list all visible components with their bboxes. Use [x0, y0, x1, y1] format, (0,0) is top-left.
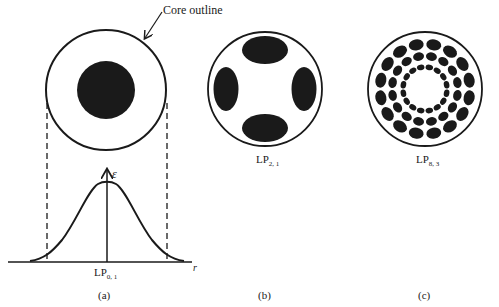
- lobe-ring-2: [452, 89, 462, 101]
- lobe-ring-2: [391, 64, 404, 78]
- fiber-mode-diagram: Core outline ε r LP0, 1 (a) LP2, 1 (b) L…: [0, 0, 499, 307]
- lobe-ring-2: [425, 51, 437, 61]
- core-outline-label: Core outline: [163, 3, 223, 17]
- lobe-ring-2: [452, 76, 462, 88]
- lobe-ring-3: [402, 97, 411, 106]
- panel-c: LP8, 3 (c): [368, 32, 482, 302]
- svg-text:LP2, 1: LP2, 1: [256, 153, 280, 168]
- annotation-arrow: [145, 12, 162, 38]
- lobe-ring-1: [462, 72, 476, 89]
- lobe-right: [292, 67, 317, 111]
- caption-a: (a): [98, 289, 111, 302]
- lobe-ring-2: [387, 89, 397, 101]
- lobe-rings: [374, 38, 476, 140]
- lobe-ring-3: [400, 89, 407, 98]
- lobe-ring-2: [436, 110, 450, 123]
- fundamental-mode-spot: [77, 61, 135, 119]
- lobe-ring-2: [412, 116, 424, 126]
- lobe-ring-3: [439, 97, 448, 106]
- lobe-ring-3: [408, 103, 417, 112]
- panel-b: LP2, 1 (b): [208, 32, 322, 302]
- lobe-ring-3: [425, 64, 434, 71]
- lobe-ring-1: [408, 38, 425, 52]
- lobe-ring-2: [425, 116, 437, 126]
- lobe-left: [214, 67, 239, 111]
- lobe-ring-1: [462, 89, 476, 106]
- lobe-ring-1: [425, 126, 442, 140]
- lobe-ring-3: [416, 64, 425, 71]
- lobe-ring-3: [408, 66, 417, 75]
- lobe-ring-3: [443, 80, 450, 89]
- lobe-ring-3: [416, 107, 425, 114]
- lobe-ring-1: [425, 38, 442, 52]
- lobe-ring-2: [446, 100, 459, 114]
- lobe-ring-3: [443, 89, 450, 98]
- panel-a: Core outline ε r LP0, 1 (a): [8, 3, 223, 302]
- svg-text:LP8, 3: LP8, 3: [416, 153, 440, 168]
- lobe-ring-2: [446, 64, 459, 78]
- caption-c: (c): [418, 289, 431, 302]
- lobe-top: [242, 36, 288, 64]
- lobe-ring-3: [400, 80, 407, 89]
- lobe-ring-3: [439, 72, 448, 81]
- epsilon-axis-label: ε: [112, 167, 117, 181]
- lobe-ring-1: [374, 89, 388, 106]
- svg-text:LP0, 1: LP0, 1: [94, 266, 118, 281]
- core-outline-circle-c: [368, 32, 482, 146]
- mode-label-a: LP0, 1: [94, 266, 118, 281]
- r-axis-label: r: [193, 262, 197, 273]
- lobe-ring-2: [412, 51, 424, 61]
- lobe-ring-3: [433, 103, 442, 112]
- lobe-ring-3: [433, 66, 442, 75]
- lobe-ring-3: [402, 72, 411, 81]
- lobe-ring-1: [374, 72, 388, 89]
- lobe-ring-3: [425, 107, 434, 114]
- lobe-ring-2: [391, 100, 404, 114]
- lobe-bottom: [242, 114, 288, 142]
- mode-label-b: LP2, 1: [256, 153, 280, 168]
- lobe-ring-1: [408, 126, 425, 140]
- lobe-ring-2: [436, 55, 450, 68]
- caption-b: (b): [258, 289, 271, 302]
- mode-label-c: LP8, 3: [416, 153, 440, 168]
- lobe-ring-2: [400, 110, 414, 123]
- lobe-ring-2: [400, 55, 414, 68]
- lobe-ring-2: [387, 76, 397, 88]
